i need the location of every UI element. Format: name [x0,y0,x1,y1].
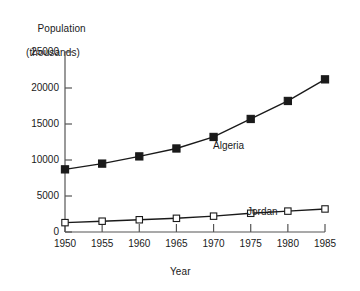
y-axis-tick-label: 15000 [7,118,59,129]
data-point-marker-algeria [136,153,143,160]
series-label-algeria: Algeria [213,140,244,151]
x-axis-ticks [65,224,325,232]
x-axis-tick-label: 1980 [268,238,308,249]
data-point-marker-jordan [285,208,291,214]
data-point-marker-algeria [61,166,68,173]
data-point-marker-jordan [99,218,105,224]
x-axis-tick-label: 1985 [305,238,345,249]
y-axis-tick-label: 25000 [7,46,59,57]
data-point-marker-algeria [321,76,328,83]
data-point-marker-algeria [247,115,254,122]
y-axis-tick-label: 20000 [7,82,59,93]
data-point-marker-jordan [210,213,216,219]
series-line-algeria [65,79,325,169]
y-axis-tick-label: 5000 [7,190,59,201]
data-point-marker-jordan [173,215,179,221]
data-point-marker-jordan [62,219,68,225]
y-axis-tick-label: 0 [7,226,59,237]
x-axis-tick-label: 1955 [82,238,122,249]
population-line-chart: Population (thousands) Year 050001000015… [0,0,360,291]
data-point-marker-algeria [173,145,180,152]
x-axis-tick-label: 1970 [194,238,234,249]
data-point-marker-jordan [136,217,142,223]
x-axis-tick-label: 1960 [119,238,159,249]
data-point-marker-algeria [284,97,291,104]
data-point-marker-algeria [99,160,106,167]
series-label-jordan: Jordan [247,206,278,217]
data-series-group [61,76,328,226]
x-axis-tick-label: 1975 [231,238,271,249]
data-point-marker-jordan [322,206,328,212]
x-axis-tick-label: 1965 [156,238,196,249]
y-axis-tick-label: 10000 [7,154,59,165]
y-axis-ticks [65,52,72,232]
x-axis-tick-label: 1950 [45,238,85,249]
